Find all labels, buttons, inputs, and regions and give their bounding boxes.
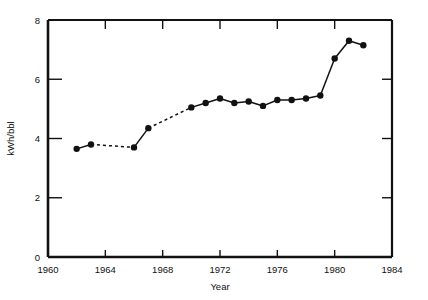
data-point-marker [346,38,352,44]
y-tick-label: 8 [35,15,40,26]
data-point-marker [145,125,151,131]
line-chart: 1960196419681972197619801984 02468 Year … [0,0,428,300]
data-point-marker [317,92,323,98]
data-point-marker [131,144,137,150]
data-point-marker [73,146,79,152]
data-point-marker [202,100,208,106]
x-tick-label: 1972 [209,264,230,275]
data-point-marker [260,103,266,109]
y-tick-label: 4 [35,133,40,144]
y-tick-label: 0 [35,252,40,263]
y-axis-title: kWh/bbl [5,121,16,155]
data-point-marker [231,100,237,106]
data-point-marker [245,98,251,104]
x-tick-label: 1960 [37,264,58,275]
data-point-marker [274,97,280,103]
x-tick-label: 1980 [324,264,345,275]
x-tick-label: 1984 [381,264,402,275]
x-tick-label: 1976 [267,264,288,275]
data-point-marker [303,95,309,101]
data-point-marker [88,141,94,147]
data-point-marker [331,55,337,61]
data-point-marker [217,95,223,101]
x-tick-label: 1964 [95,264,116,275]
chart-figure: 1960196419681972197619801984 02468 Year … [0,0,428,300]
y-tick-label: 6 [35,74,40,85]
x-tick-label: 1968 [152,264,173,275]
data-point-marker [360,42,366,48]
data-point-marker [288,97,294,103]
y-tick-label: 2 [35,192,40,203]
data-point-marker [188,104,194,110]
x-axis-title: Year [210,281,229,292]
